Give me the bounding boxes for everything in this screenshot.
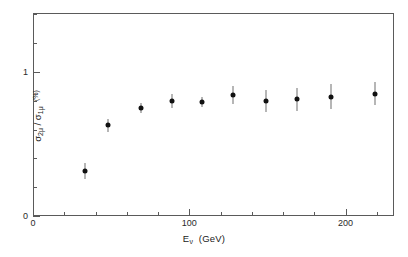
y-axis-unit: (%) [32, 90, 39, 101]
y-axis-denominator: σ [32, 114, 43, 120]
y-tick-label: 0 [11, 212, 28, 221]
y-tick-minor [33, 187, 37, 188]
y-tick-minor [33, 14, 37, 15]
x-tick-minor [158, 212, 159, 216]
x-tick-minor [377, 212, 378, 216]
plot-frame [33, 13, 394, 216]
x-axis-title: Eν (GeV) [0, 233, 408, 245]
x-tick-label: 0 [30, 219, 35, 228]
y-tick-minor [33, 43, 37, 44]
y-axis-denominator-subscript: 1μ [37, 106, 44, 114]
figure-canvas: 010020001 Eν (GeV) σ2μ / σ1μ (%) [0, 0, 408, 257]
x-tick-minor [314, 212, 315, 216]
x-tick-label: 100 [182, 219, 197, 228]
x-axis-title-subscript: ν [189, 238, 193, 245]
y-axis-divider: / [32, 123, 43, 126]
x-tick-minor [283, 212, 284, 216]
y-tick-major [33, 216, 40, 217]
x-tick-major [346, 209, 347, 216]
x-tick-minor [252, 212, 253, 216]
x-tick-major [189, 209, 190, 216]
x-tick-minor [96, 212, 97, 216]
x-tick-major [33, 209, 34, 216]
y-axis-title: σ2μ / σ1μ (%) [32, 56, 44, 176]
y-tick-label: 1 [11, 68, 28, 77]
x-tick-minor [64, 212, 65, 216]
x-tick-minor [221, 212, 222, 216]
x-axis-title-unit: (GeV) [199, 233, 225, 244]
x-tick-minor [127, 212, 128, 216]
y-axis-numerator-subscript: 2μ [37, 128, 44, 136]
x-tick-label: 200 [338, 219, 353, 228]
y-axis-numerator: σ [32, 136, 43, 142]
